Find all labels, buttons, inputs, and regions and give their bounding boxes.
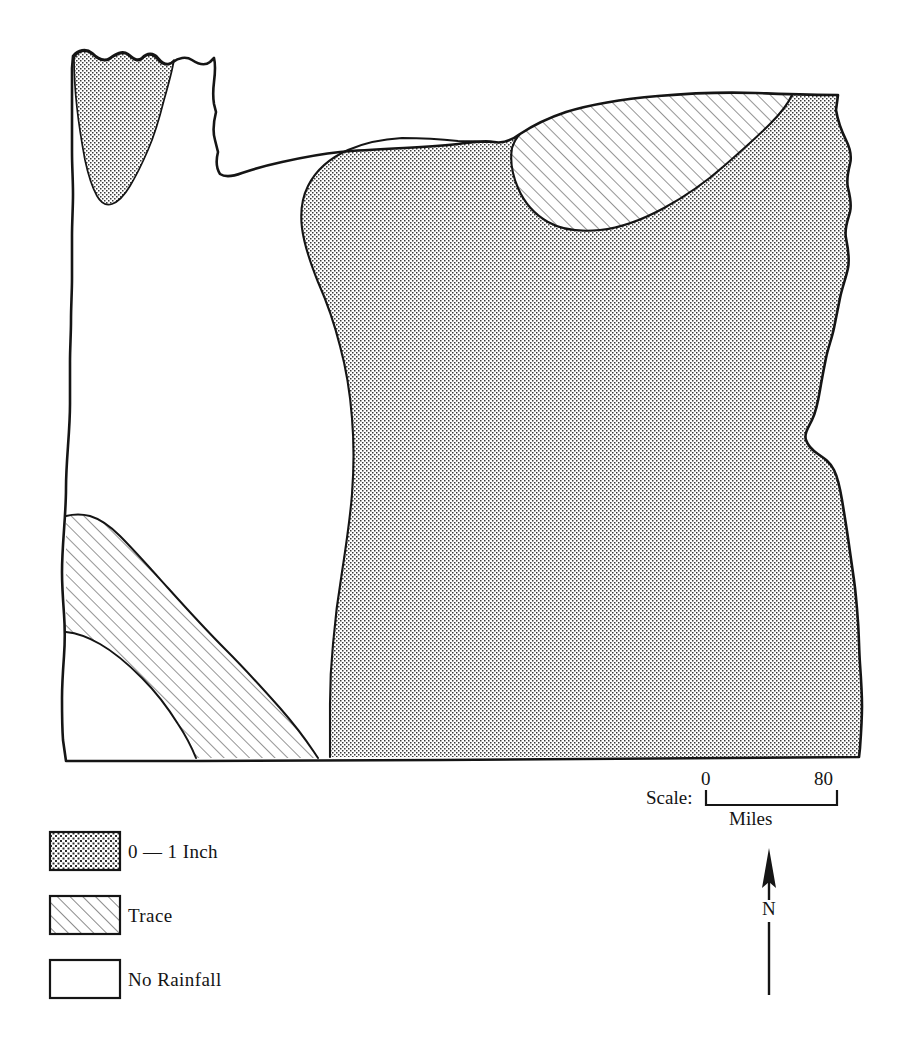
legend-label-no-rainfall: No Rainfall [128,969,222,991]
legend-swatch-blank [50,960,120,998]
legend-label-0-1-inch: 0 — 1 Inch [128,841,218,863]
legend-swatch-hatch [50,896,120,934]
scale-prefix-label: Scale: [646,787,692,809]
north-arrow-label: N [762,898,776,920]
scale-max-label: 80 [814,768,833,790]
scale-min-label: 0 [701,768,711,790]
legend-label-trace: Trace [128,905,173,927]
oregon-rainfall-map-svg [0,0,905,1041]
legend-swatch-stipple [50,832,120,870]
scale-units-label: Miles [729,808,772,830]
